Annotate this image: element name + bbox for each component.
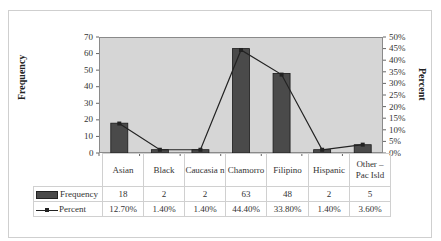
line-marker <box>361 143 365 147</box>
table-cell: 2 <box>144 187 185 202</box>
category-label: Hispanic <box>309 154 350 187</box>
line-marker <box>239 48 243 52</box>
category-label: Caucasia n <box>185 154 226 187</box>
table-cell: 12.70% <box>103 202 144 217</box>
table-cell: 1.40% <box>144 202 185 217</box>
line-marker <box>198 148 202 152</box>
table-row-percent: Percent 12.70% 1.40% 1.40% 44.40% 33.80%… <box>34 202 391 217</box>
frequency-bars <box>111 49 371 153</box>
line-marker <box>158 148 162 152</box>
table-cell: 48 <box>267 187 309 202</box>
table-cell: 5 <box>350 187 391 202</box>
line-marker-icon <box>36 206 58 214</box>
line-marker <box>280 73 284 77</box>
table-cell: 1.40% <box>185 202 226 217</box>
bar-swatch-icon <box>36 191 58 199</box>
table-cell: 2 <box>309 187 350 202</box>
table-cell: 44.40% <box>226 202 267 217</box>
category-label: Filipino <box>267 154 309 187</box>
legend-frequency: Frequency <box>34 187 103 202</box>
category-label: Asian <box>103 154 144 187</box>
data-table: Asian Black Caucasia n Chamorro Filipino… <box>33 153 391 217</box>
category-label: Black <box>144 154 185 187</box>
table-cell: 33.80% <box>267 202 309 217</box>
table-cell: 63 <box>226 187 267 202</box>
table-cell: 3.60% <box>350 202 391 217</box>
line-marker <box>320 148 324 152</box>
table-cell: 2 <box>185 187 226 202</box>
line-marker <box>117 122 121 126</box>
legend-percent: Percent <box>34 202 103 217</box>
category-label: Chamorro <box>226 154 267 187</box>
table-header-row: Asian Black Caucasia n Chamorro Filipino… <box>34 154 391 187</box>
table-cell: 1.40% <box>309 202 350 217</box>
table-cell: 18 <box>103 187 144 202</box>
table-row-frequency: Frequency 18 2 2 63 48 2 5 <box>34 187 391 202</box>
category-label: Other – Pac Isld <box>350 154 391 187</box>
